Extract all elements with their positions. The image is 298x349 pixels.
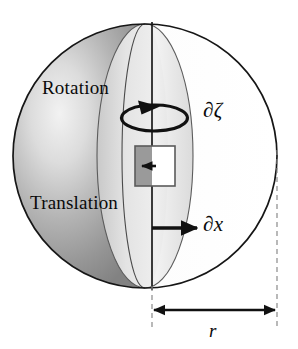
label-partial-zeta: ∂ζ [203,100,222,121]
label-radius: r [209,321,216,340]
label-translation: Translation [30,193,118,212]
figure-canvas: Rotation Translation ∂ζ ∂x r [0,0,298,349]
diagram-svg [0,0,298,349]
element-square-group [135,146,175,186]
label-partial-x: ∂x [203,214,223,235]
label-rotation: Rotation [42,78,109,97]
